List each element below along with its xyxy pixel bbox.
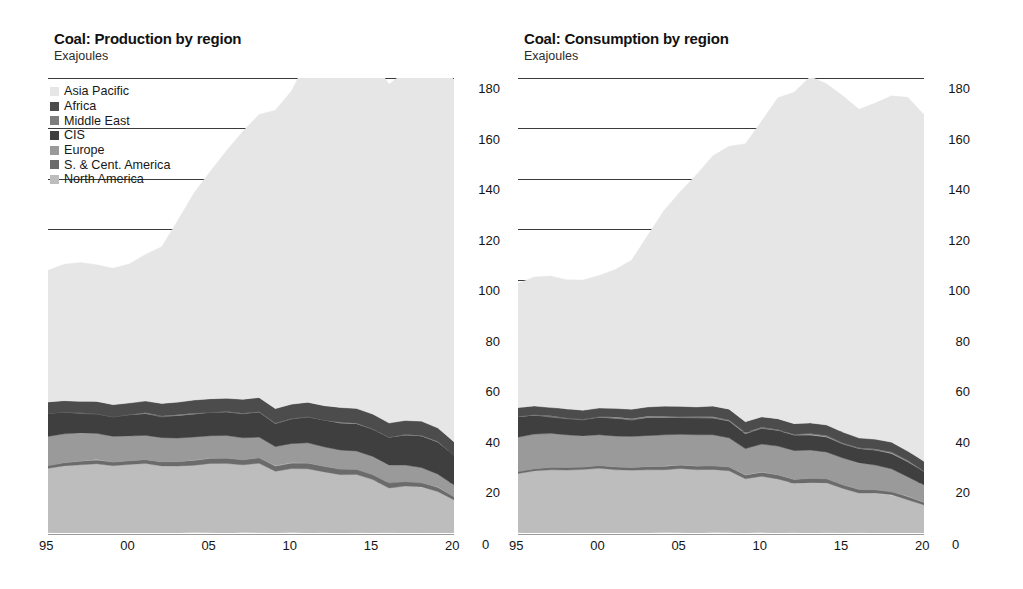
legend-item[interactable]: Asia Pacific: [50, 84, 170, 99]
production-title: Coal: Production by region: [54, 30, 241, 48]
y-axis-tick-label: 40: [956, 436, 970, 449]
chart-panel-production: Coal: Production by region Exajoules 204…: [0, 0, 512, 589]
legend-swatch-icon: [50, 102, 59, 111]
y-axis-tick-label: 100: [948, 284, 970, 297]
consumption-title: Coal: Consumption by region: [524, 30, 729, 48]
y-axis-tick-label: 20: [956, 486, 970, 499]
legend-swatch-icon: [50, 160, 59, 169]
legend-item-label: CIS: [64, 128, 85, 142]
legend-swatch-icon: [50, 175, 59, 184]
y-axis-zero-label: 0: [952, 538, 959, 551]
legend-item-label: Africa: [64, 99, 96, 113]
area-band-asia-pacific: [518, 78, 924, 461]
x-axis-tick-label: 20: [445, 539, 459, 553]
legend-swatch-icon: [50, 87, 59, 96]
x-axis-tick-label: 15: [834, 539, 848, 553]
consumption-subtitle: Exajoules: [524, 49, 729, 64]
legend-item-label: Middle East: [64, 114, 130, 128]
production-subtitle: Exajoules: [54, 49, 241, 64]
legend-swatch-icon: [50, 146, 59, 155]
x-axis-tick-label: 15: [364, 539, 378, 553]
consumption-x-axis: 950005101520: [518, 534, 924, 560]
legend-item-label: North America: [64, 172, 144, 186]
legend-item-label: Asia Pacific: [64, 84, 129, 98]
y-axis-tick-label: 60: [956, 385, 970, 398]
y-axis-zero-label: 0: [482, 538, 489, 551]
y-axis-tick-label: 80: [956, 335, 970, 348]
consumption-y-axis: 204060801001201401601800: [926, 78, 972, 533]
legend-item[interactable]: Europe: [50, 143, 170, 158]
chart-legend: Asia PacificAfricaMiddle EastCISEuropeS.…: [50, 84, 170, 187]
x-axis-tick-label: 95: [509, 539, 523, 553]
legend-swatch-icon: [50, 116, 59, 125]
consumption-x-axis-line: [518, 534, 924, 535]
consumption-plot-area: [518, 78, 924, 533]
y-axis-tick-label: 140: [948, 183, 970, 196]
x-axis-tick-label: 10: [753, 539, 767, 553]
x-axis-tick-label: 00: [590, 539, 604, 553]
production-x-axis-line: [48, 534, 454, 535]
x-axis-tick-label: 05: [201, 539, 215, 553]
legend-item[interactable]: Middle East: [50, 113, 170, 128]
production-x-axis: 950005101520: [48, 534, 454, 560]
x-axis-tick-label: 05: [671, 539, 685, 553]
consumption-header: Coal: Consumption by region Exajoules: [524, 30, 729, 64]
production-header: Coal: Production by region Exajoules: [54, 30, 241, 64]
x-axis-tick-label: 00: [120, 539, 134, 553]
legend-item-label: Europe: [64, 143, 105, 157]
legend-item[interactable]: North America: [50, 172, 170, 187]
figure-root: Coal: Production by region Exajoules 204…: [0, 0, 1023, 589]
x-axis-tick-label: 95: [39, 539, 53, 553]
legend-item[interactable]: Africa: [50, 99, 170, 114]
legend-item[interactable]: S. & Cent. America: [50, 157, 170, 172]
y-axis-tick-label: 120: [948, 234, 970, 247]
y-axis-tick-label: 180: [948, 82, 970, 95]
legend-item[interactable]: CIS: [50, 128, 170, 143]
legend-swatch-icon: [50, 131, 59, 140]
x-axis-tick-label: 10: [283, 539, 297, 553]
consumption-stacked-area: [518, 78, 924, 533]
y-axis-tick-label: 160: [948, 133, 970, 146]
chart-panel-consumption: Coal: Consumption by region Exajoules 20…: [494, 0, 1023, 589]
legend-item-label: S. & Cent. America: [64, 158, 170, 172]
x-axis-tick-label: 20: [915, 539, 929, 553]
